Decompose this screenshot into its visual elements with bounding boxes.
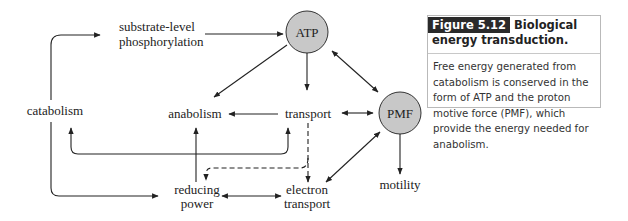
caption-body: Free energy generated from catabolism is…	[428, 54, 600, 152]
reducing-label: reducing	[174, 182, 220, 197]
edge-atp-to-anabolism	[214, 45, 287, 97]
edge-pmf-electron-transport	[326, 132, 380, 182]
substrate-level-label: substrate-level	[119, 19, 195, 34]
edge-transport-to-reducing-dashed	[206, 158, 308, 180]
motility-label: motility	[379, 177, 421, 192]
anabolism-label: anabolism	[168, 106, 221, 121]
caption-heading: Figure 5.12Biological energy transductio…	[428, 16, 600, 48]
transport-label: transport	[285, 106, 332, 121]
catabolism-label: catabolism	[27, 103, 83, 118]
atp-label: ATP	[295, 25, 318, 40]
figure-caption: Figure 5.12Biological energy transductio…	[427, 15, 601, 108]
edge-catabolism-loop-to-transport	[71, 128, 288, 154]
edge-atp-pmf	[332, 51, 378, 92]
pmf-label: PMF	[387, 106, 413, 121]
electron-label: electron	[286, 182, 328, 197]
figure-number-badge: Figure 5.12	[428, 17, 510, 33]
edge-catabolism-to-substrate	[51, 35, 100, 100]
electron-transport-label: transport	[284, 196, 331, 211]
power-label: power	[181, 196, 214, 211]
phosphorylation-label: phosphorylation	[119, 34, 204, 49]
edge-catabolism-to-reducing-power	[51, 122, 158, 196]
